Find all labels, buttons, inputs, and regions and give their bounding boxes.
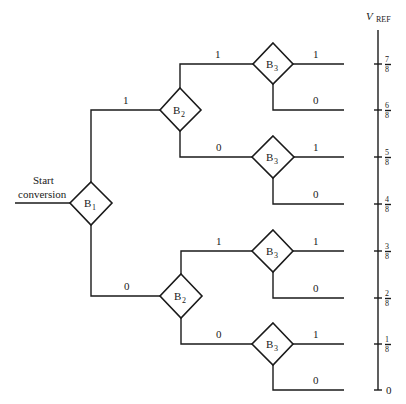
svg-text:8: 8 xyxy=(385,65,389,74)
vref-axis: V REF 78 68 58 48 38 28 18 0 xyxy=(366,10,392,396)
svg-text:5: 5 xyxy=(385,148,389,157)
svg-text:3: 3 xyxy=(274,64,278,73)
b2l-branch-1 xyxy=(181,251,252,274)
svg-text:3: 3 xyxy=(385,242,389,251)
tick-5-8: 58 xyxy=(385,148,391,167)
svg-text:2: 2 xyxy=(182,296,186,305)
svg-text:B: B xyxy=(266,151,273,163)
edge-label-b2u-0: 0 xyxy=(216,141,222,153)
tick-1-8: 18 xyxy=(385,335,391,354)
svg-text:0: 0 xyxy=(386,384,392,396)
svg-text:2: 2 xyxy=(181,110,185,119)
edge-label-b1-0: 0 xyxy=(124,280,130,292)
node-b3-2: B 3 xyxy=(252,136,294,178)
tick-2-8: 28 xyxy=(385,289,391,308)
b1-branch-1 xyxy=(91,110,160,182)
svg-text:3: 3 xyxy=(274,251,278,260)
axis-label: V xyxy=(366,10,374,22)
tick-0: 0 xyxy=(386,384,392,396)
node-b3-4: B 3 xyxy=(252,323,293,365)
svg-text:B: B xyxy=(173,104,180,116)
edge-label-b2l-1: 1 xyxy=(216,235,222,247)
svg-text:B: B xyxy=(266,245,273,257)
out-label-0: 0 xyxy=(313,374,319,386)
output-0 xyxy=(273,365,344,390)
svg-text:8: 8 xyxy=(385,252,389,261)
svg-text:B: B xyxy=(266,58,273,70)
svg-text:3: 3 xyxy=(274,344,278,353)
node-b3-3: B 3 xyxy=(252,230,293,272)
out-label-7: 1 xyxy=(313,48,319,60)
svg-text:8: 8 xyxy=(385,111,389,120)
out-label-3: 1 xyxy=(313,235,319,247)
node-b2-lower: B 2 xyxy=(160,274,202,318)
svg-text:7: 7 xyxy=(385,55,389,64)
svg-text:3: 3 xyxy=(274,157,278,166)
edge-label-b2u-1: 1 xyxy=(215,48,221,60)
tick-3-8: 38 xyxy=(385,242,391,261)
svg-text:B: B xyxy=(84,197,91,209)
svg-text:B: B xyxy=(266,338,273,350)
b2u-branch-1 xyxy=(180,64,253,88)
svg-text:1: 1 xyxy=(92,203,96,212)
tick-4-8: 48 xyxy=(385,195,391,214)
tick-6-8: 68 xyxy=(385,101,391,120)
svg-text:8: 8 xyxy=(385,299,389,308)
svg-text:4: 4 xyxy=(385,195,389,204)
output-2 xyxy=(273,272,344,298)
svg-text:2: 2 xyxy=(385,289,389,298)
output-4 xyxy=(273,178,344,204)
decision-tree-diagram: Start conversion 1 0 1 0 1 0 1 0 1 0 1 0… xyxy=(0,0,406,404)
svg-text:6: 6 xyxy=(385,101,389,110)
node-b1: B 1 xyxy=(70,182,112,225)
start-label-line2: conversion xyxy=(18,188,67,200)
node-b3-1: B 3 xyxy=(253,43,293,84)
edge-label-b2l-0: 0 xyxy=(216,328,222,340)
out-label-2: 0 xyxy=(313,282,319,294)
tick-7-8: 78 xyxy=(385,55,391,74)
svg-text:8: 8 xyxy=(385,345,389,354)
output-6 xyxy=(273,84,344,110)
out-label-4: 0 xyxy=(313,188,319,200)
svg-text:B: B xyxy=(174,290,181,302)
start-label-line1: Start xyxy=(33,174,54,186)
out-label-5: 1 xyxy=(313,141,319,153)
out-label-1: 1 xyxy=(313,328,319,340)
edge-label-b1-1: 1 xyxy=(123,94,129,106)
axis-label-sub: REF xyxy=(376,15,391,24)
svg-text:8: 8 xyxy=(385,158,389,167)
svg-text:8: 8 xyxy=(385,205,389,214)
node-b2-upper: B 2 xyxy=(160,88,201,131)
svg-text:1: 1 xyxy=(385,335,389,344)
out-label-6: 0 xyxy=(313,94,319,106)
